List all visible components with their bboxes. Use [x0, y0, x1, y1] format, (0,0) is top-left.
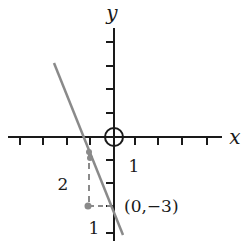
run-label: 1 — [89, 220, 100, 237]
coordinate-plane — [0, 0, 243, 249]
point-on-line — [87, 155, 93, 161]
unit-label: 1 — [129, 158, 140, 175]
rise-label: 2 — [58, 176, 69, 193]
point-top — [86, 149, 92, 155]
intercept-label: (0,−3) — [124, 198, 179, 215]
graph-figure: y x 1 2 1 (0,−3) — [0, 0, 243, 249]
point-corner — [85, 203, 92, 210]
x-axis-label: x — [229, 127, 240, 147]
y-axis-label: y — [106, 3, 117, 23]
